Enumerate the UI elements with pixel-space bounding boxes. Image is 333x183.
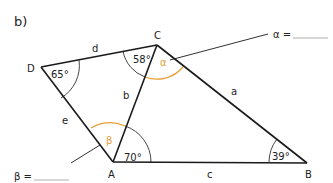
vertex-label-d: D bbox=[27, 63, 35, 74]
side-label-e: e bbox=[62, 115, 68, 126]
angle-label-b: 39° bbox=[272, 151, 290, 162]
side-label-d: d bbox=[92, 43, 98, 54]
side-label-c: c bbox=[207, 169, 213, 180]
angle-label-a: 70° bbox=[124, 152, 142, 163]
side-label-a: a bbox=[231, 86, 237, 97]
geometry-diagram: b) C D A B d e b a c 65° 58° 70° 39° α β… bbox=[0, 0, 333, 183]
side-c bbox=[113, 162, 307, 163]
angle-label-c: 58° bbox=[133, 54, 151, 65]
alpha-leader-line bbox=[170, 34, 268, 60]
angle-label-beta: β bbox=[106, 135, 112, 146]
beta-leader-line bbox=[71, 145, 100, 163]
vertex-label-b: B bbox=[305, 169, 312, 180]
angle-arc-alpha bbox=[145, 67, 183, 79]
beta-answer-prompt: β = bbox=[14, 171, 32, 182]
side-label-b: b bbox=[123, 90, 129, 101]
side-a bbox=[157, 45, 307, 163]
vertex-label-a: A bbox=[108, 169, 115, 180]
vertex-label-c: C bbox=[154, 30, 161, 41]
angle-label-d: 65° bbox=[51, 69, 69, 80]
angle-label-alpha: α bbox=[160, 57, 167, 68]
part-label: b) bbox=[14, 14, 27, 29]
angle-arc-beta bbox=[91, 123, 125, 128]
alpha-answer-prompt: α = bbox=[273, 29, 291, 40]
side-e bbox=[41, 67, 113, 162]
